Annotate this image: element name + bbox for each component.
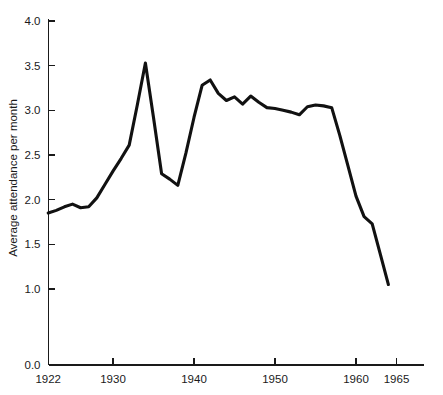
y-tick-label: 1.5 [25, 238, 41, 250]
x-tick-label: 1922 [35, 373, 61, 385]
x-axis: 192219301940195019601965 [35, 358, 424, 385]
x-tick-label: 1940 [181, 373, 207, 385]
y-tick-label: 3.0 [25, 104, 41, 116]
y-axis-title: Average attendance per month [7, 99, 19, 257]
x-tick-label: 1965 [384, 373, 410, 385]
x-tick-label: 1950 [262, 373, 288, 385]
y-tick-label: 1.0 [25, 283, 41, 295]
line-chart: 1.01.52.02.53.03.54.00.0 192219301940195… [0, 0, 443, 395]
y-axis-title-group: Average attendance per month [7, 99, 19, 257]
chart-container: 1.01.52.02.53.03.54.00.0 192219301940195… [0, 0, 443, 395]
y-tick-label: 2.5 [25, 149, 41, 161]
y-axis: 1.01.52.02.53.03.54.00.0 [25, 15, 55, 371]
data-series-group [48, 63, 388, 285]
series-line [48, 63, 388, 285]
y-tick-label: 4.0 [25, 15, 41, 27]
x-tick-label: 1960 [343, 373, 369, 385]
x-tick-label: 1930 [100, 373, 126, 385]
y-tick-label: 2.0 [25, 194, 41, 206]
y-tick-label: 3.5 [25, 60, 41, 72]
y-origin-label: 0.0 [25, 359, 41, 371]
